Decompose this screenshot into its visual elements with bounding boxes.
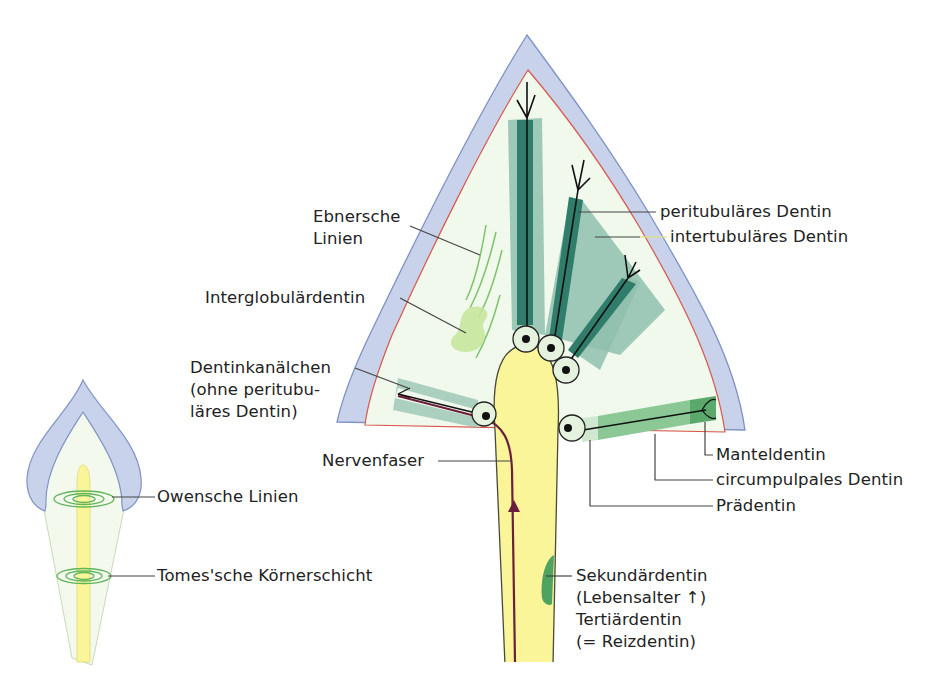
label-owensche-linien: Owensche Linien — [157, 486, 299, 508]
label-intertubulaeres-dentin: intertubuläres Dentin — [670, 226, 848, 248]
label-manteldentin: Manteldentin — [716, 444, 826, 466]
pulp-cutoff — [480, 662, 580, 695]
label-praedentin: Prädentin — [716, 495, 796, 517]
leader-circumpulpal — [655, 434, 713, 480]
label-ebnersche-linien: Ebnersche Linien — [313, 206, 400, 250]
pulp-chamber — [494, 345, 558, 665]
peritubular-stripe-1 — [517, 120, 533, 325]
label-peritubulaeres-dentin: peritubuläres Dentin — [660, 201, 832, 223]
label-interglobulaerdentin: Interglobulärdentin — [205, 287, 365, 309]
label-nervenfaser: Nervenfaser — [322, 450, 424, 472]
label-tomes-koernerschicht: Tomes'sche Körnerschicht — [157, 565, 372, 587]
small-tooth-overview — [27, 380, 155, 665]
label-circumpulpales-dentin: circumpulpales Dentin — [716, 469, 903, 491]
dentin-diagram — [0, 0, 945, 695]
leader-praedentin — [590, 440, 713, 506]
label-sekundaer-tertiaerdentin: Sekundärdentin (Lebensalter ↑) Tertiärde… — [576, 565, 708, 653]
label-dentinkanaelchen: Dentinkanälchen (ohne peritubu- läres De… — [190, 357, 331, 423]
small-tooth-pulp — [77, 465, 90, 662]
